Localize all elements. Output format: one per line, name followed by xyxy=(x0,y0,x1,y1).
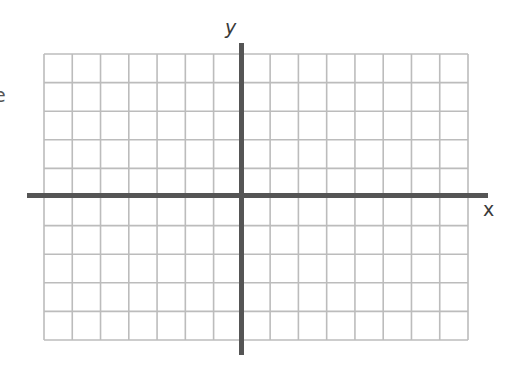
y-axis-label: y xyxy=(225,18,236,37)
coordinate-plane xyxy=(0,0,516,371)
x-axis-label: x xyxy=(483,200,494,219)
cropped-text-fragment: e xyxy=(0,86,6,105)
